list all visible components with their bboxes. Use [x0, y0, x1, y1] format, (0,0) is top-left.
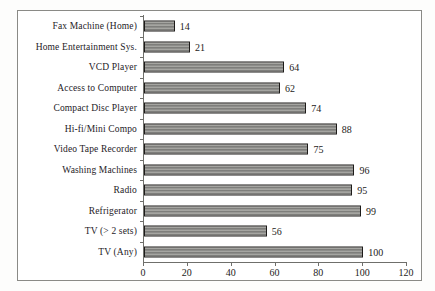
bar — [144, 21, 175, 32]
x-axis-tick-label: 60 — [270, 267, 280, 278]
category-label: Hi-fi/Mini Compo — [65, 124, 137, 134]
category-tick-mark — [140, 201, 143, 202]
bar-row: TV (> 2 sets)56 — [143, 221, 406, 242]
bar — [144, 82, 280, 93]
bar-value-label: 21 — [195, 41, 205, 52]
category-label: VCD Player — [89, 62, 137, 72]
x-axis-tick-label: 100 — [355, 267, 370, 278]
bar — [144, 246, 363, 257]
category-tick-mark — [140, 16, 143, 17]
category-tick-mark — [140, 221, 143, 222]
category-tick-mark — [140, 242, 143, 243]
bar-row: Video Tape Recorder75 — [143, 139, 406, 160]
category-tick-mark — [140, 57, 143, 58]
category-label: Compact Disc Player — [53, 103, 137, 113]
bar — [144, 144, 308, 155]
bar-row: Home Entertainment Sys.21 — [143, 37, 406, 58]
category-label: TV (> 2 sets) — [85, 226, 137, 236]
bar-value-label: 56 — [272, 226, 282, 237]
bar — [144, 185, 352, 196]
bar — [144, 226, 267, 237]
category-tick-mark — [140, 37, 143, 38]
x-axis-tick-mark — [318, 262, 319, 266]
bar — [144, 164, 354, 175]
bar-value-label: 64 — [289, 62, 299, 73]
bar-value-label: 96 — [359, 164, 369, 175]
x-axis-tick-mark — [406, 262, 407, 266]
bar-row: Compact Disc Player74 — [143, 98, 406, 119]
x-axis-tick-mark — [143, 262, 144, 266]
x-axis-tick-mark — [231, 262, 232, 266]
bar — [144, 62, 284, 73]
bar — [144, 205, 361, 216]
category-label: TV (Any) — [98, 247, 137, 257]
bar-value-label: 74 — [311, 103, 321, 114]
bar — [144, 123, 337, 134]
bar-value-label: 62 — [285, 82, 295, 93]
bar-value-label: 75 — [313, 144, 323, 155]
category-label: Video Tape Recorder — [54, 144, 137, 154]
bar-value-label: 14 — [180, 21, 190, 32]
bar-row: Washing Machines96 — [143, 160, 406, 181]
bar-value-label: 100 — [368, 246, 383, 257]
x-axis-tick-label: 80 — [313, 267, 323, 278]
x-axis-tick-mark — [362, 262, 363, 266]
category-tick-mark — [140, 180, 143, 181]
x-axis-tick-label: 120 — [399, 267, 414, 278]
category-tick-mark — [140, 139, 143, 140]
plot-area: Fax Machine (Home)14Home Entertainment S… — [143, 16, 406, 262]
bar-row: Refrigerator99 — [143, 201, 406, 222]
category-label: Fax Machine (Home) — [53, 21, 137, 31]
x-axis-tick-label: 0 — [141, 267, 146, 278]
category-label: Radio — [114, 185, 137, 195]
bar — [144, 103, 306, 114]
category-tick-mark — [140, 119, 143, 120]
bar — [144, 41, 190, 52]
chart-figure: Fax Machine (Home)14Home Entertainment S… — [0, 0, 435, 291]
bar-row: Hi-fi/Mini Compo88 — [143, 119, 406, 140]
category-tick-mark — [140, 78, 143, 79]
category-label: Washing Machines — [62, 165, 137, 175]
bar-value-label: 88 — [342, 123, 352, 134]
bar-row: Radio95 — [143, 180, 406, 201]
bar-value-label: 95 — [357, 185, 367, 196]
bar-row: VCD Player64 — [143, 57, 406, 78]
bar-row: Access to Computer62 — [143, 78, 406, 99]
bar-row: TV (Any)100 — [143, 242, 406, 263]
category-tick-mark — [140, 160, 143, 161]
category-label: Refrigerator — [89, 206, 137, 216]
x-axis-tick-mark — [187, 262, 188, 266]
bar-row: Fax Machine (Home)14 — [143, 16, 406, 37]
bar-value-label: 99 — [366, 205, 376, 216]
category-tick-mark — [140, 98, 143, 99]
category-label: Home Entertainment Sys. — [36, 42, 137, 52]
x-axis-tick-label: 40 — [226, 267, 236, 278]
x-axis-tick-mark — [275, 262, 276, 266]
x-axis-tick-label: 20 — [182, 267, 192, 278]
category-label: Access to Computer — [57, 83, 137, 93]
